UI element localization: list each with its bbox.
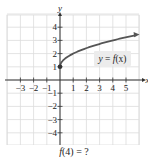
start-point-dot — [58, 65, 63, 70]
x-tick-label: −2 — [29, 83, 39, 93]
x-tick-label: −3 — [16, 83, 26, 93]
x-tick-label: 4 — [111, 83, 116, 93]
x-tick-label: 1 — [71, 83, 76, 93]
curve-label: y = f(x) — [94, 51, 131, 66]
x-axis-label: x — [145, 75, 149, 85]
y-tick-label: 1 — [53, 62, 58, 72]
y-tick-label: −4 — [47, 128, 57, 138]
question-caption: f(4) = ? — [0, 146, 148, 157]
y-tick-label: −2 — [47, 101, 57, 111]
axes: xy — [5, 3, 148, 145]
y-tick-label: −1 — [47, 88, 57, 98]
y-axis-label: y — [57, 3, 62, 13]
x-tick-label: 2 — [84, 83, 89, 93]
y-tick-label: 4 — [53, 22, 58, 32]
y-tick-label: −3 — [47, 115, 57, 125]
question-text: (4) = ? — [62, 146, 89, 157]
x-tick-label: 5 — [124, 83, 129, 93]
x-tick-label: 3 — [97, 83, 102, 93]
function-graph: xy −3−2−112345−4−3−2−11234 y = f(x) — [0, 0, 148, 145]
curve-label-text: y = f(x) — [97, 54, 126, 65]
y-tick-label: 3 — [53, 35, 58, 45]
y-tick-label: 2 — [53, 49, 58, 59]
